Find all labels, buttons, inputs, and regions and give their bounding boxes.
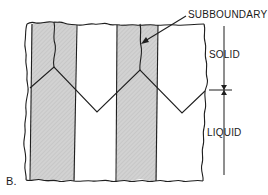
subboundary-label: SUBBOUNDARY xyxy=(188,10,267,20)
shaded-grain-left xyxy=(31,21,76,182)
panel-label: B. xyxy=(6,176,17,187)
solid-label: SOLID xyxy=(209,50,240,60)
shaded-grain-right xyxy=(117,24,158,181)
diagram-canvas xyxy=(0,0,268,195)
liquid-label: LIQUID xyxy=(207,128,242,138)
